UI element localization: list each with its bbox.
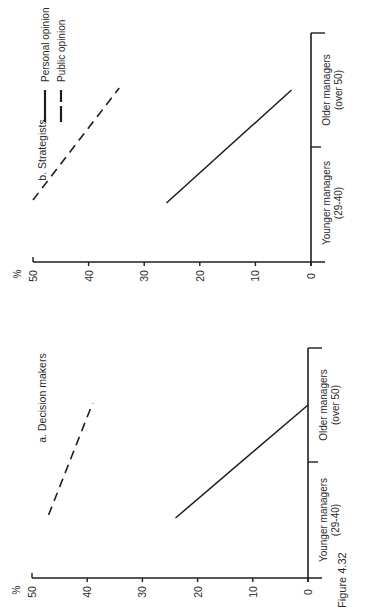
category-label-range: (29-40) [333,187,344,219]
value-tick-label: 30 [138,270,150,282]
personal-opinion-line [176,405,308,518]
value-axis-unit: % [11,585,22,594]
legend-label: Public opinion [56,20,67,82]
category-label: Older managers [318,369,329,441]
value-tick-label: 20 [194,270,206,282]
panel-title: b. Strategists [36,119,48,180]
chart-strategists: 01020304050%Younger managers(29-40)Older… [12,8,344,282]
value-tick-label: 50 [26,586,38,598]
value-tick-label: 40 [81,586,93,598]
public-opinion-line [49,403,93,515]
value-tick-label: 30 [136,586,148,598]
category-label: Younger managers [321,161,332,245]
value-tick-label: 10 [249,270,261,282]
panel-title: a. Decision makers [36,353,48,442]
category-label: Older managers [321,54,332,126]
value-tick-label: 10 [247,586,259,598]
category-label-range: (over 50) [330,385,341,425]
category-label-range: (29-40) [330,504,341,536]
legend-label: Personal opinion [40,8,51,83]
value-tick-label: 40 [83,270,95,282]
personal-opinion-line [166,90,291,203]
figure-4-32: 01020304050%Younger managers(29-40)Older… [0,0,370,610]
chart-decision-makers: 01020304050%Younger managers(29-40)Older… [11,348,341,598]
value-tick-label: 0 [302,589,314,595]
value-tick-label: 0 [305,273,317,279]
value-tick-label: 50 [27,270,39,282]
figure-caption: Figure 4.32 [336,552,348,608]
category-label-range: (over 50) [333,70,344,110]
value-axis-unit: % [12,269,23,278]
value-tick-label: 20 [192,586,204,598]
category-label: Younger managers [318,478,329,562]
